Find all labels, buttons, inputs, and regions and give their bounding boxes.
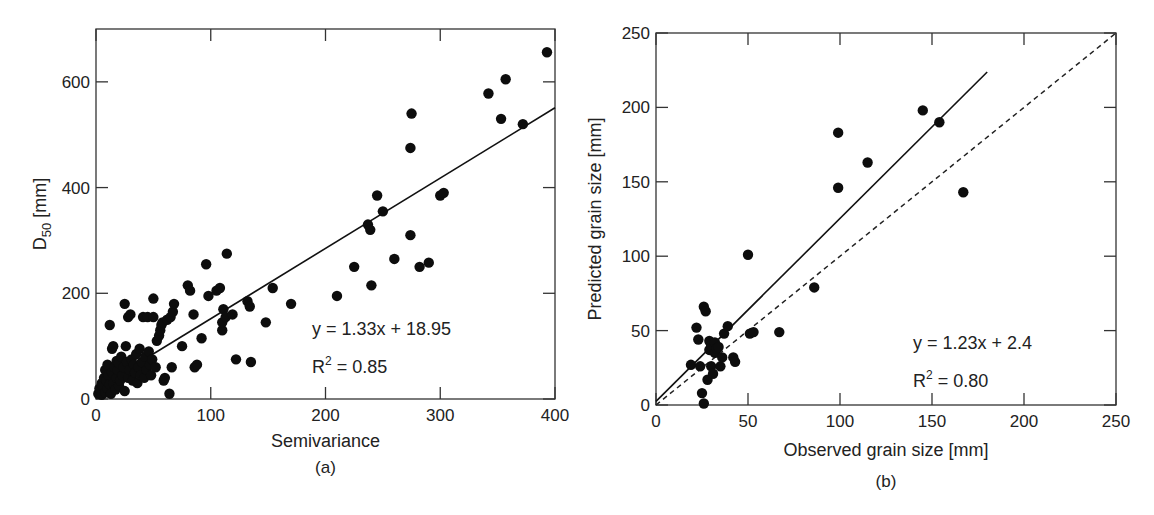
data-point [405, 230, 415, 240]
x-tick-label: 0 [91, 406, 100, 425]
x-tick-label: 100 [197, 406, 225, 425]
data-point [389, 254, 399, 264]
chart-panel-b: 050100150200250050100150200250y = 1.23x … [585, 24, 1130, 491]
x-tick-label: 0 [651, 412, 660, 431]
data-point [862, 157, 872, 167]
x-tick-label: 250 [1102, 412, 1130, 431]
one-to-one-reference-line [656, 33, 1116, 405]
data-point [691, 322, 701, 332]
data-point [148, 312, 158, 322]
y-tick-label: 0 [641, 396, 650, 415]
data-point [105, 320, 115, 330]
data-point [743, 250, 753, 260]
data-point [483, 88, 493, 98]
x-axis-label: Observed grain size [mm] [783, 440, 988, 460]
data-point [774, 327, 784, 337]
data-point [169, 299, 179, 309]
data-point [500, 74, 510, 84]
regression-equation: y = 1.23x + 2.4 [913, 333, 1032, 353]
data-point [713, 342, 723, 352]
data-point [332, 291, 342, 301]
data-point [160, 373, 170, 383]
r-squared-symbol: R [913, 371, 926, 391]
data-point [365, 225, 375, 235]
data-point [148, 293, 158, 303]
data-point [349, 262, 359, 272]
data-point [372, 190, 382, 200]
x-tick-label: 400 [541, 406, 569, 425]
data-point [496, 114, 506, 124]
data-point [261, 317, 271, 327]
panel-caption: (a) [315, 458, 336, 477]
y-tick-label: 250 [622, 24, 650, 43]
data-point [708, 369, 718, 379]
data-point [518, 119, 528, 129]
data-point [164, 389, 174, 399]
y-tick-label: 200 [62, 284, 90, 303]
regression-equation: y = 1.33x + 18.95 [312, 319, 451, 339]
data-point [286, 299, 296, 309]
data-point [918, 105, 928, 115]
r-squared-label: R2 = 0.80 [913, 368, 988, 391]
data-point [695, 361, 705, 371]
data-point [185, 285, 195, 295]
x-tick-label: 200 [1010, 412, 1038, 431]
y-tick-label: 150 [622, 173, 650, 192]
panel-caption: (b) [876, 472, 897, 491]
data-point [700, 306, 710, 316]
data-point [167, 362, 177, 372]
data-point [934, 117, 944, 127]
data-point [188, 309, 198, 319]
data-point [268, 283, 278, 293]
data-point [227, 309, 237, 319]
x-tick-label: 100 [826, 412, 854, 431]
r-squared-symbol: R [312, 357, 325, 377]
data-point [125, 309, 135, 319]
data-point [366, 280, 376, 290]
data-point [196, 333, 206, 343]
data-point [833, 127, 843, 137]
data-point [150, 362, 160, 372]
y-axis-label: Predicted grain size [mm] [585, 117, 605, 320]
data-point [414, 262, 424, 272]
data-point [697, 388, 707, 398]
y-tick-label: 400 [62, 179, 90, 198]
data-point [958, 187, 968, 197]
data-point [119, 386, 129, 396]
data-point [809, 282, 819, 292]
y-tick-label: 200 [622, 98, 650, 117]
y-tick-label: 100 [622, 247, 650, 266]
data-point [715, 361, 725, 371]
y-axis-label-unit: [mm] [30, 178, 50, 223]
data-point [119, 299, 129, 309]
data-point [717, 352, 727, 362]
y-tick-label: 50 [631, 322, 650, 341]
data-point [245, 301, 255, 311]
x-tick-label: 200 [311, 406, 339, 425]
data-point [438, 188, 448, 198]
x-axis-label: Semivariance [271, 431, 380, 451]
data-point [231, 354, 241, 364]
data-point [542, 47, 552, 57]
chart-panel-a: 01002003004000200400600y = 1.33x + 18.95… [30, 29, 569, 477]
data-point [406, 108, 416, 118]
y-axis-label-main: D [30, 237, 50, 250]
y-tick-label: 600 [62, 73, 90, 92]
data-point [686, 360, 696, 370]
data-point [201, 259, 211, 269]
data-point [723, 321, 733, 331]
r-squared-value: = 0.80 [933, 371, 989, 391]
r-squared-value: = 0.85 [332, 357, 388, 377]
x-tick-label: 300 [426, 406, 454, 425]
data-point [405, 143, 415, 153]
data-point [192, 359, 202, 369]
data-point [730, 357, 740, 367]
data-point [108, 341, 118, 351]
r-squared-label: R2 = 0.85 [312, 354, 387, 377]
data-point [693, 334, 703, 344]
data-point [699, 398, 709, 408]
data-point [177, 341, 187, 351]
data-point [833, 183, 843, 193]
data-point [215, 283, 225, 293]
data-point [378, 206, 388, 216]
